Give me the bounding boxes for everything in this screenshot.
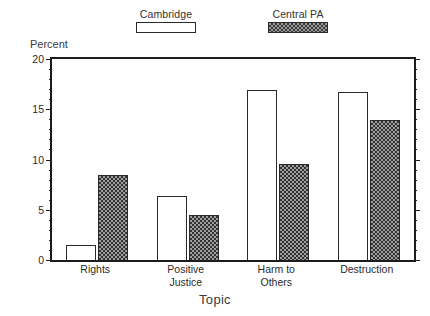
x-axis-category-line: Rights (50, 263, 141, 276)
y-axis-minor-tick (49, 170, 52, 171)
hatched-rectangle-swatch (268, 22, 328, 33)
bar-cambridge (66, 245, 96, 260)
y-axis-minor-tick (414, 139, 417, 140)
y-axis-minor-tick (414, 230, 417, 231)
x-axis-category-label: PositiveJustice (141, 263, 232, 288)
bar-central-pa (189, 215, 219, 260)
y-axis-minor-tick (49, 200, 52, 201)
x-axis-category-line: Harm to (231, 263, 322, 276)
y-axis-major-tick (414, 109, 420, 110)
y-axis-minor-tick (49, 240, 52, 241)
y-axis-minor-tick (49, 250, 52, 251)
y-axis-minor-tick (49, 99, 52, 100)
y-axis-major-tick (46, 109, 52, 110)
y-axis-major-tick (46, 260, 52, 261)
y-axis-minor-tick (49, 129, 52, 130)
y-axis-minor-tick (49, 139, 52, 140)
y-axis-major-tick (414, 210, 420, 211)
y-axis-title: Percent (30, 38, 68, 50)
bar-cambridge (247, 90, 277, 260)
y-axis-major-tick (414, 59, 420, 60)
x-axis-category-line: Others (231, 276, 322, 289)
bar-central-pa (98, 175, 128, 260)
bar-cambridge (338, 92, 368, 260)
y-axis-minor-tick (414, 220, 417, 221)
y-axis-minor-tick (49, 190, 52, 191)
bar-central-pa (279, 164, 309, 260)
y-axis-tick-label: 5 (38, 204, 44, 216)
x-axis-category-label: Harm toOthers (231, 263, 322, 288)
bar-cambridge (157, 196, 187, 260)
y-axis-tick-label: 20 (32, 53, 44, 65)
bar-central-pa (370, 120, 400, 260)
y-axis-minor-tick (49, 230, 52, 231)
y-axis-minor-tick (414, 200, 417, 201)
x-axis-category-line: Positive (141, 263, 232, 276)
y-axis-major-tick (46, 59, 52, 60)
legend-label-central-pa: Central PA (250, 8, 346, 20)
plot-area: 05101520 (50, 57, 416, 262)
y-axis-minor-tick (49, 220, 52, 221)
x-axis-category-line: Justice (141, 276, 232, 289)
chart-legend: Cambridge Central PA (0, 8, 430, 40)
y-axis-tick-label: 10 (32, 154, 44, 166)
y-axis-major-tick (46, 210, 52, 211)
y-axis-minor-tick (414, 149, 417, 150)
y-axis-minor-tick (414, 190, 417, 191)
legend-entry-cambridge: Cambridge (118, 8, 214, 33)
x-axis-category-label: Rights (50, 263, 141, 276)
y-axis-minor-tick (49, 69, 52, 70)
y-axis-minor-tick (49, 149, 52, 150)
y-axis-minor-tick (414, 99, 417, 100)
y-axis-minor-tick (49, 119, 52, 120)
y-axis-minor-tick (414, 180, 417, 181)
y-axis-minor-tick (414, 79, 417, 80)
y-axis-minor-tick (49, 89, 52, 90)
y-axis-minor-tick (414, 69, 417, 70)
y-axis-major-tick (414, 160, 420, 161)
open-rectangle-swatch (136, 22, 196, 33)
y-axis-minor-tick (414, 119, 417, 120)
y-axis-major-tick (414, 260, 420, 261)
y-axis-tick-label: 0 (38, 254, 44, 266)
bar-chart: Cambridge Central PA Percent 05101520 To… (0, 0, 430, 316)
y-axis-minor-tick (49, 79, 52, 80)
legend-entry-central-pa: Central PA (250, 8, 346, 33)
x-axis-category-label: Destruction (322, 263, 413, 276)
y-axis-minor-tick (414, 240, 417, 241)
x-axis-category-line: Destruction (322, 263, 413, 276)
y-axis-minor-tick (414, 250, 417, 251)
y-axis-minor-tick (49, 180, 52, 181)
y-axis-minor-tick (414, 170, 417, 171)
y-axis-minor-tick (414, 129, 417, 130)
x-axis-title: Topic (0, 292, 430, 307)
y-axis-minor-tick (414, 89, 417, 90)
y-axis-tick-label: 15 (32, 103, 44, 115)
y-axis-major-tick (46, 160, 52, 161)
legend-label-cambridge: Cambridge (118, 8, 214, 20)
